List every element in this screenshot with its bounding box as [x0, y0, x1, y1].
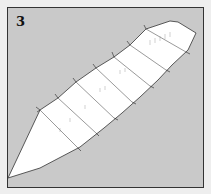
larva-body — [8, 21, 196, 178]
larva-illustration — [0, 0, 211, 194]
